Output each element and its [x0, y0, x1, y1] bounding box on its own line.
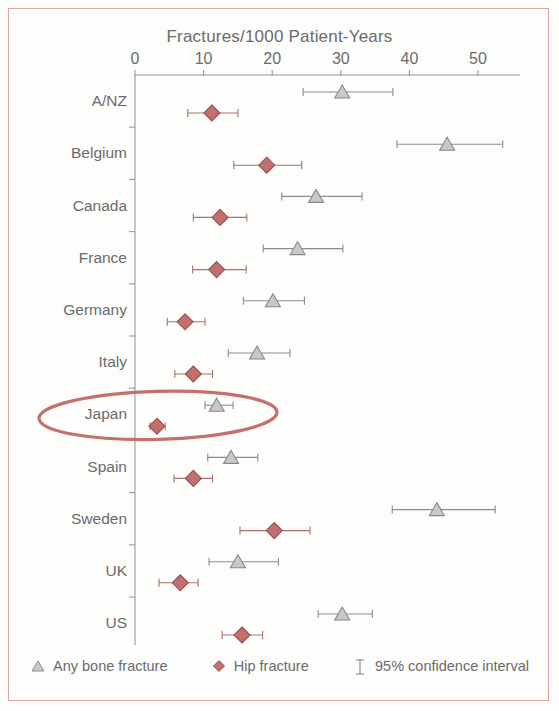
legend-label-hip-fracture: Hip fracture [234, 658, 309, 674]
error-bar-icon [352, 658, 368, 674]
legend-label-any-bone-fracture: Any bone fracture [53, 658, 167, 674]
marker-hip-fracture-spain [185, 470, 201, 486]
chart-legend: Any bone fracture Hip fracture 95% confi… [18, 651, 541, 681]
triangle-marker-icon [30, 658, 46, 674]
legend-item-confidence-interval: 95% confidence interval [352, 658, 529, 674]
marker-hip-fracture-sweden [266, 523, 282, 539]
legend-item-any-bone-fracture: Any bone fracture [30, 658, 167, 674]
marker-hip-fracture-a-nz [204, 105, 220, 121]
marker-hip-fracture-uk [172, 575, 188, 591]
diamond-marker-icon [211, 658, 227, 674]
plot-area [0, 0, 559, 711]
marker-hip-fracture-us [234, 627, 250, 643]
marker-hip-fracture-germany [177, 314, 193, 330]
legend-item-hip-fracture: Hip fracture [211, 658, 309, 674]
marker-hip-fracture-belgium [259, 157, 275, 173]
marker-hip-fracture-italy [185, 366, 201, 382]
marker-hip-fracture-canada [212, 209, 228, 225]
marker-hip-fracture-japan [149, 418, 165, 434]
figure-panel: Fractures/1000 Patient-Years 01020304050… [0, 0, 559, 711]
legend-label-confidence-interval: 95% confidence interval [375, 658, 529, 674]
marker-hip-fracture-france [209, 262, 225, 278]
japan-highlight-ellipse [38, 388, 277, 442]
